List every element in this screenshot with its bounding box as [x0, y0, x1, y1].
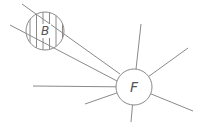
- diagram-canvas: B F B F: [0, 0, 204, 132]
- node-f-label-text: F: [130, 79, 139, 95]
- ray-0: [136, 24, 141, 69]
- ray-1: [149, 48, 188, 77]
- node-b-label-text: B: [41, 24, 49, 38]
- ray-3: [131, 105, 133, 122]
- ray-5: [33, 86, 116, 87]
- hatch-pattern: [10, 4, 120, 81]
- lines-through-b: [10, 4, 120, 81]
- diagram-svg: B F: [0, 0, 204, 132]
- node-b: B: [10, 4, 120, 81]
- node-f: F: [116, 69, 152, 105]
- ray-2: [151, 94, 193, 111]
- ray-4: [85, 93, 117, 104]
